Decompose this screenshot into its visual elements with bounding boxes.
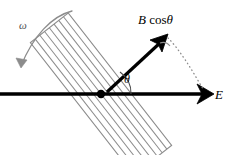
cos-function-label: cos: [149, 12, 166, 27]
b-component-angle-symbol: θ: [167, 12, 173, 27]
physics-diagram: B cosθ θ ω E: [0, 0, 227, 155]
e-field-label: E: [215, 88, 223, 101]
angular-velocity-label: ω: [19, 20, 27, 31]
diagram-canvas: [0, 0, 227, 155]
b-component-label: B cosθ: [138, 13, 173, 26]
b-component-vector: [107, 34, 168, 92]
theta-angle-label: θ: [124, 73, 130, 85]
pivot-point-dot: [97, 90, 105, 98]
projection-dotted-line: [168, 38, 203, 89]
hatched-slab: [30, 13, 171, 155]
b-component-symbol: B: [138, 12, 146, 27]
